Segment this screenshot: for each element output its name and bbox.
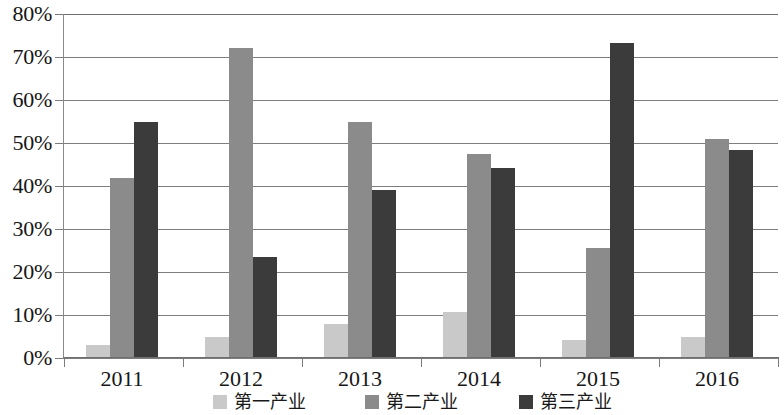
plot-area <box>64 14 778 358</box>
legend-item[interactable]: 第二产业 <box>365 392 458 412</box>
bar <box>467 154 491 358</box>
y-tick-label: 80% <box>13 3 52 25</box>
x-tick-label: 2011 <box>100 367 143 391</box>
x-tick-label: 2016 <box>695 367 739 391</box>
y-tick-label: 20% <box>13 261 52 283</box>
legend-label: 第二产业 <box>386 392 458 412</box>
bar <box>134 122 158 359</box>
x-tick-label: 2013 <box>338 367 382 391</box>
x-tick-mark <box>64 358 65 367</box>
bar <box>443 312 467 358</box>
bar <box>491 168 515 358</box>
y-axis: 0%10%20%30%40%50%60%70%80% <box>0 0 62 372</box>
bar-chart: 0%10%20%30%40%50%60%70%80% 2011201220132… <box>0 0 784 415</box>
x-tick-mark <box>778 358 779 367</box>
x-tick-mark <box>659 358 660 367</box>
bar <box>586 248 610 358</box>
y-tick-label: 50% <box>13 132 52 154</box>
y-tick-label: 30% <box>13 218 52 240</box>
y-tick-label: 70% <box>13 46 52 68</box>
bar <box>562 340 586 358</box>
bar <box>110 178 134 358</box>
x-tick-mark <box>302 358 303 367</box>
x-tick-mark <box>540 358 541 367</box>
x-tick-mark <box>183 358 184 367</box>
legend-label: 第三产业 <box>540 392 612 412</box>
y-tick-label: 40% <box>13 175 52 197</box>
bar <box>205 337 229 359</box>
x-tick-label: 2014 <box>457 367 501 391</box>
x-tick-mark <box>421 358 422 367</box>
bar <box>372 190 396 358</box>
x-tick-label: 2012 <box>219 367 263 391</box>
legend-swatch-icon <box>519 395 533 409</box>
y-tick-label: 60% <box>13 89 52 111</box>
y-tick-label: 10% <box>13 304 52 326</box>
bar <box>324 324 348 358</box>
legend-swatch-icon <box>365 395 379 409</box>
bars-layer <box>64 14 778 358</box>
y-tick-label: 0% <box>23 347 52 369</box>
bar <box>729 150 753 358</box>
x-axis: 201120122013201420152016 <box>64 358 780 392</box>
legend-item[interactable]: 第三产业 <box>519 392 612 412</box>
legend-swatch-icon <box>213 395 227 409</box>
x-tick-label: 2015 <box>576 367 620 391</box>
bar <box>705 139 729 358</box>
legend-item[interactable]: 第一产业 <box>213 392 306 412</box>
bar <box>253 257 277 358</box>
bar <box>681 337 705 358</box>
bar <box>229 48 253 358</box>
bar <box>610 43 634 358</box>
bar <box>348 122 372 359</box>
legend-label: 第一产业 <box>234 392 306 412</box>
chart-legend: 第一产业第二产业第三产业 <box>0 392 784 415</box>
